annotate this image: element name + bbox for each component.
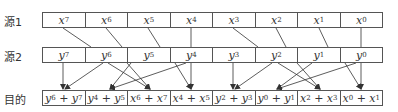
src2-register: y7 y6 y5 y4 y3 y2 y1 y0	[42, 47, 383, 63]
src1-cell: x1	[298, 13, 341, 27]
src1-cell: x7	[43, 13, 86, 27]
src2-cell: y3	[213, 48, 256, 62]
dest-register: y6 + y7 y4 + y5 x6 + x7 x4 + x5 y2 + y3 …	[42, 90, 383, 106]
src2-cell: y0	[341, 48, 383, 62]
src2-cell: y7	[43, 48, 86, 62]
dest-cell: y6 + y7	[43, 91, 86, 105]
src1-cell: x6	[86, 13, 129, 27]
src1-cell: x3	[213, 13, 256, 27]
src1-cell: x2	[256, 13, 299, 27]
src2-cell: y2	[256, 48, 299, 62]
dest-cell: x2 + x3	[298, 91, 341, 105]
src2-cell: y4	[171, 48, 214, 62]
dest-cell: x6 + x7	[128, 91, 171, 105]
src1-cell: x4	[171, 13, 214, 27]
src1-cell: x0	[341, 13, 383, 27]
src2-cell: y6	[86, 48, 129, 62]
dest-cell: y2 + y3	[213, 91, 256, 105]
src2-cell: y1	[298, 48, 341, 62]
dest-cell: x4 + x5	[171, 91, 214, 105]
dest-cell: y4 + y5	[86, 91, 129, 105]
dest-cell: y0 + y1	[256, 91, 299, 105]
src2-cell: y5	[128, 48, 171, 62]
dest-cell: x0 + x1	[341, 91, 383, 105]
src1-cell: x5	[128, 13, 171, 27]
src1-register: x7 x6 x5 x4 x3 x2 x1 x0	[42, 12, 383, 28]
